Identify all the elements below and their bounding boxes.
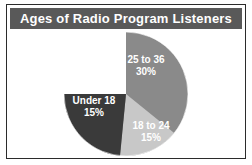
- chart-figure: Ages of Radio Program Listeners 25 to 36…: [6, 4, 246, 159]
- pie-chart-svg: [63, 31, 189, 157]
- page-title: Ages of Radio Program Listeners: [20, 11, 232, 26]
- plot-area: 25 to 36 30% Under 18 15% 18 to 24 15%: [10, 30, 242, 156]
- chart-title-bar: Ages of Radio Program Listeners: [10, 8, 242, 29]
- pie-slice-under-18: [64, 94, 126, 156]
- pie-chart: 25 to 36 30% Under 18 15% 18 to 24 15%: [63, 31, 189, 157]
